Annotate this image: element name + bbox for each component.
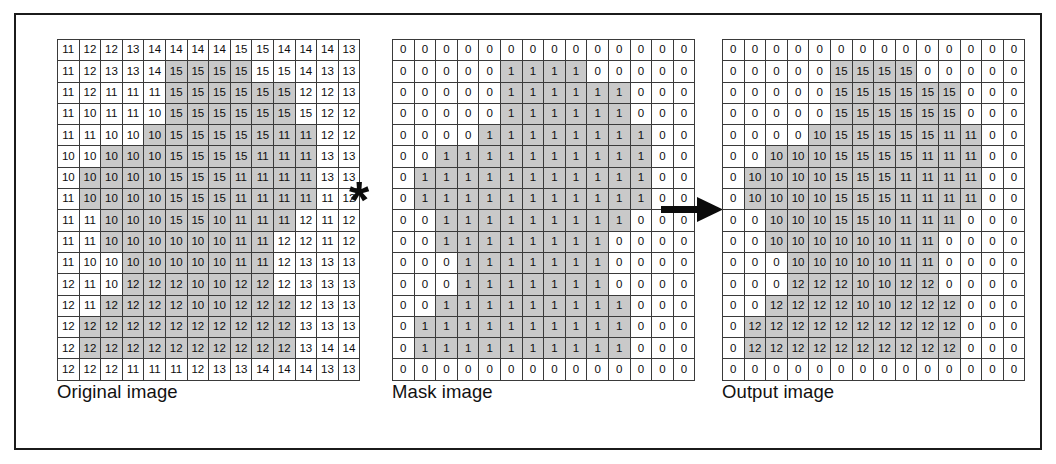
grid-cell: 0 [630, 252, 652, 273]
grid-cell: 10 [809, 189, 831, 210]
grid-cell: 1 [565, 231, 587, 252]
grid-cell: 12 [101, 295, 123, 316]
grid-cell: 11 [273, 125, 295, 146]
grid-original-image: 1112121314141414151514141413111213131415… [57, 39, 360, 381]
grid-cell: 0 [960, 82, 982, 103]
grid-cell: 13 [338, 274, 360, 295]
grid-cell: 15 [165, 125, 187, 146]
grid-row: 1212121212121212121212131414 [58, 338, 360, 359]
grid-cell: 15 [165, 210, 187, 231]
grid-cell: 12 [744, 338, 766, 359]
grid-cell: 10 [874, 210, 896, 231]
grid-cell: 15 [187, 125, 209, 146]
grid-cell: 0 [393, 61, 415, 82]
grid-cell: 12 [895, 274, 917, 295]
grid-row: 000001515151500000 [723, 61, 1025, 82]
grid-cell: 11 [252, 231, 274, 252]
grid-cell: 1 [608, 167, 630, 188]
panel-original-image: 1112121314141414151514141413111213131415… [57, 39, 360, 381]
grid-cell: 0 [723, 40, 745, 61]
grid-row: 1212121212121212121212131313 [58, 316, 360, 337]
grid-cell: 13 [230, 359, 252, 380]
grid-cell: 0 [630, 40, 652, 61]
grid-cell: 0 [393, 146, 415, 167]
grid-cell: 0 [630, 295, 652, 316]
grid-cell: 1 [587, 125, 609, 146]
grid-cell: 1 [500, 274, 522, 295]
grid-cell: 0 [895, 359, 917, 380]
grid-cell: 1 [608, 82, 630, 103]
grid-cell: 0 [938, 359, 960, 380]
grid-cell: 13 [317, 146, 339, 167]
grid-cell: 0 [393, 274, 415, 295]
grid-cell: 0 [938, 274, 960, 295]
grid-cell: 12 [144, 338, 166, 359]
grid-cell: 10 [766, 146, 788, 167]
grid-cell: 0 [744, 40, 766, 61]
grid-cell: 10 [209, 295, 231, 316]
grid-cell: 10 [165, 231, 187, 252]
grid-cell: 15 [852, 167, 874, 188]
grid-cell: 12 [58, 316, 80, 337]
grid-cell: 10 [122, 210, 144, 231]
grid-cell: 1 [436, 295, 458, 316]
grid-cell: 0 [673, 82, 695, 103]
grid-cell: 10 [809, 125, 831, 146]
grid-cell: 13 [338, 252, 360, 273]
grid-cell: 11 [230, 252, 252, 273]
grid-cell: 11 [917, 146, 939, 167]
grid-cell: 12 [809, 295, 831, 316]
grid-cell: 15 [187, 61, 209, 82]
figure-root: 1112121314141414151514141413111213131415… [0, 0, 1056, 464]
grid-cell: 0 [830, 40, 852, 61]
grid-cell: 1 [587, 316, 609, 337]
grid-cell: 0 [393, 103, 415, 124]
grid-cell: 11 [58, 61, 80, 82]
grid-cell: 12 [79, 359, 101, 380]
grid-cell: 15 [830, 82, 852, 103]
grid-cell: 15 [852, 189, 874, 210]
grid-cell: 0 [565, 40, 587, 61]
grid-cell: 12 [165, 295, 187, 316]
grid-cell: 12 [766, 316, 788, 337]
grid-cell: 0 [766, 61, 788, 82]
grid-cell: 10 [122, 125, 144, 146]
grid-cell: 15 [852, 210, 874, 231]
grid-cell: 0 [1003, 61, 1025, 82]
grid-cell: 0 [414, 146, 436, 167]
grid-cell: 12 [787, 316, 809, 337]
grid-cell: 0 [787, 103, 809, 124]
grid-cell: 10 [766, 231, 788, 252]
grid-cell: 1 [522, 210, 544, 231]
grid-cell: 1 [479, 231, 501, 252]
grid-cell: 11 [252, 210, 274, 231]
grid-cell: 12 [895, 295, 917, 316]
grid-cell: 0 [960, 40, 982, 61]
right-arrow-icon [661, 195, 723, 225]
grid-cell: 1 [522, 231, 544, 252]
grid-cell: 11 [295, 167, 317, 188]
grid-cell: 10 [122, 146, 144, 167]
grid-row: 00000000000000 [393, 359, 695, 380]
grid-cell: 11 [144, 82, 166, 103]
grid-cell: 11 [960, 146, 982, 167]
grid-cell: 10 [874, 274, 896, 295]
grid-cell: 0 [960, 61, 982, 82]
grid-cell: 0 [479, 40, 501, 61]
grid-cell: 15 [209, 167, 231, 188]
grid-cell: 0 [457, 82, 479, 103]
grid-cell: 15 [230, 40, 252, 61]
grid-cell: 12 [787, 338, 809, 359]
grid-cell: 15 [230, 125, 252, 146]
grid-cell: 1 [630, 125, 652, 146]
grid-cell: 0 [393, 316, 415, 337]
grid-cell: 0 [630, 231, 652, 252]
grid-cell: 1 [587, 210, 609, 231]
grid-cell: 10 [101, 231, 123, 252]
grid-cell: 0 [652, 103, 674, 124]
grid-cell: 1 [479, 189, 501, 210]
grid-cell: 10 [209, 274, 231, 295]
grid-cell: 11 [273, 167, 295, 188]
grid-cell: 0 [436, 125, 458, 146]
grid-cell: 12 [317, 125, 339, 146]
